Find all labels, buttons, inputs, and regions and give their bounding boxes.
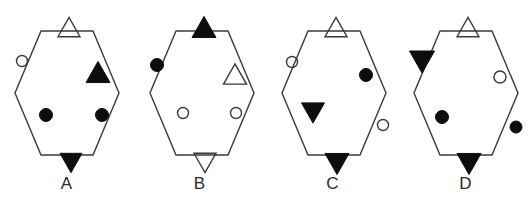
hexagon-outline [414, 31, 518, 155]
option-label-d: D [399, 174, 532, 194]
filled-circle-lower-left-icon [436, 111, 449, 124]
filled-triangle-down-bottom-icon [457, 153, 481, 174]
open-triangle-up-top-icon [457, 17, 479, 36]
filled-triangle-down-upper-left-icon [410, 51, 435, 73]
option-figure-d[interactable]: D [399, 0, 532, 205]
open-circle-upper-right-icon [494, 71, 506, 83]
figure-panel: ABCD [0, 0, 532, 205]
filled-circle-lower-right-icon [510, 121, 522, 133]
